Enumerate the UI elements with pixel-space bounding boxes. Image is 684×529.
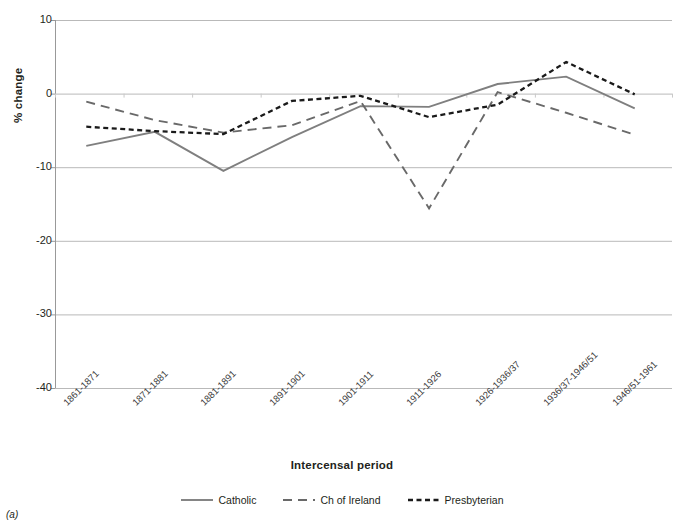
legend-item-catholic[interactable]: Catholic	[180, 494, 256, 506]
gridlines	[55, 21, 672, 389]
y-tick-label: -30	[10, 307, 52, 319]
legend-swatch-dashed-line-icon	[282, 495, 316, 505]
y-tick-label: -10	[10, 160, 52, 172]
panel-caption: (a)	[6, 509, 18, 520]
chart-figure: % change 100-10-20-30-40 1861-18711871-1…	[0, 0, 684, 529]
legend-label: Catholic	[218, 494, 256, 506]
legend-item-ch-of-ireland[interactable]: Ch of Ireland	[282, 494, 380, 506]
legend-swatch-solid-line-icon	[180, 495, 214, 505]
y-axis-tick-labels: 100-10-20-30-40	[0, 0, 52, 400]
series-line-catholic	[86, 77, 634, 171]
legend-swatch-dotted-line-icon	[407, 495, 441, 505]
y-tick-label: -40	[10, 381, 52, 393]
y-tick-label: 10	[10, 13, 52, 25]
x-axis-title: Intercensal period	[0, 459, 684, 471]
legend-label: Presbyterian	[445, 494, 504, 506]
series-line-presbyterian	[86, 62, 634, 134]
legend-item-presbyterian[interactable]: Presbyterian	[407, 494, 504, 506]
chart-legend: CatholicCh of IrelandPresbyterian	[0, 494, 684, 506]
series-line-ch-of-ireland	[86, 92, 634, 208]
legend-label: Ch of Ireland	[320, 494, 380, 506]
line-chart-canvas	[0, 0, 684, 529]
y-tick-label: 0	[10, 87, 52, 99]
y-tick-label: -20	[10, 234, 52, 246]
